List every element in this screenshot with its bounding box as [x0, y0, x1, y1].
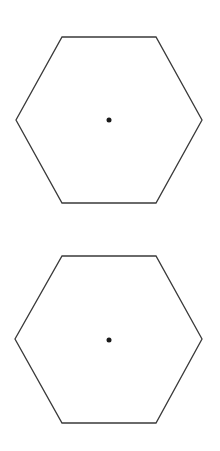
bottom-hexagon-center-dot [107, 338, 112, 343]
hexagons-svg [0, 0, 220, 451]
diagram-canvas [0, 0, 220, 451]
top-hexagon-center-dot [107, 118, 112, 123]
